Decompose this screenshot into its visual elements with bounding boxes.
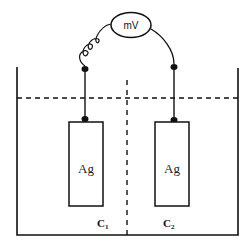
right-terminal-dot [171,64,178,70]
right-electrode: Ag [155,122,189,206]
left-terminal-dot [82,66,89,72]
compartment-label-c2: C2 [163,217,175,231]
right-lead-wire [151,29,174,64]
millivoltmeter: mV [111,13,151,38]
left-electrode: Ag [69,122,103,206]
right-electrode-label: Ag [164,161,180,176]
compartment-label-c1: C1 [97,217,109,231]
left-electrode-label: Ag [78,161,94,176]
coiled-lead-wire [80,24,111,66]
left-electrode-contact-dot [82,116,89,122]
concentration-cell-diagram: mV Ag Ag C1 C2 [0,0,250,251]
meter-label: mV [124,20,139,31]
